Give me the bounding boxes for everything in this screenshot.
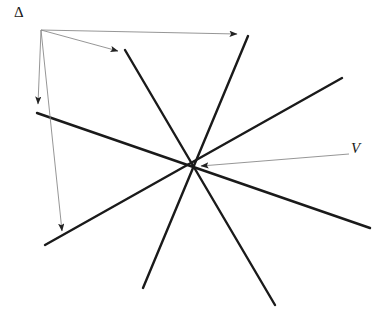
- arrow-to-line-4: [41, 30, 237, 34]
- v-label: V: [351, 141, 360, 156]
- arrow-to-line-2: [41, 30, 62, 231]
- arrow-to-line-1: [38, 30, 41, 104]
- thick-line-group: [37, 36, 370, 305]
- arrow-to-vertex: [201, 154, 349, 166]
- arrow-to-line-3: [41, 30, 118, 51]
- diagram-canvas: Δ V: [0, 0, 384, 322]
- line-2: [45, 78, 342, 245]
- line-3: [125, 50, 275, 305]
- line-4: [143, 36, 248, 288]
- delta-label: Δ: [14, 5, 24, 20]
- line-1: [37, 113, 370, 228]
- line-diagram: [0, 0, 384, 322]
